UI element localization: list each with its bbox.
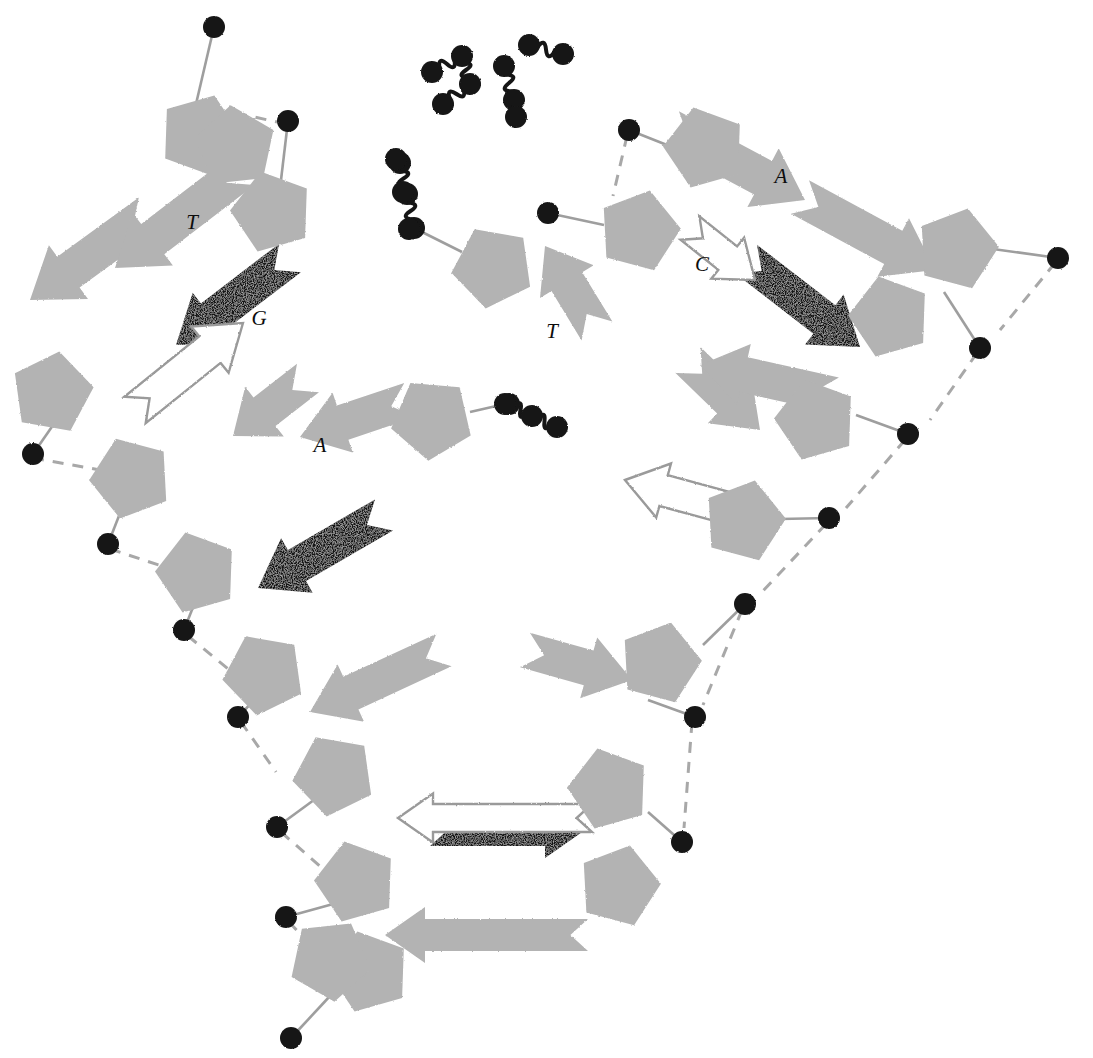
- diagram-canvas: TGATCA: [0, 0, 1093, 1058]
- label-T-center: T: [546, 319, 559, 343]
- phosphate-circle: [897, 423, 919, 445]
- squiggle-ball: [451, 45, 473, 67]
- phosphate-circle: [173, 619, 195, 641]
- phosphate-circle: [671, 831, 693, 853]
- phosphate-circle: [392, 181, 414, 203]
- phosphate-circle: [1047, 247, 1069, 269]
- squiggle-ball: [459, 73, 481, 95]
- label-A-upper-right: A: [773, 164, 788, 188]
- phosphate-circle: [537, 202, 559, 224]
- squiggle-ball: [493, 55, 515, 77]
- label-T-upper-left: T: [186, 210, 199, 234]
- phosphate-circle: [969, 337, 991, 359]
- phosphate-circle: [97, 533, 119, 555]
- phosphate-circle: [203, 16, 225, 38]
- phosphate-circle: [818, 507, 840, 529]
- phosphate-circle: [385, 148, 407, 170]
- squiggle-ball: [505, 106, 527, 128]
- label-C-right: C: [695, 252, 710, 276]
- phosphate-circle: [684, 706, 706, 728]
- phosphate-circle: [22, 443, 44, 465]
- phosphate-circle: [275, 906, 297, 928]
- label-G-upper-left: G: [251, 306, 266, 330]
- squiggle-ball: [521, 405, 543, 427]
- phosphate-circle: [227, 706, 249, 728]
- squiggle-ball: [552, 43, 574, 65]
- squiggle-ball: [421, 61, 443, 83]
- label-A-mid-left: A: [312, 433, 327, 457]
- squiggle-ball: [546, 416, 568, 438]
- phosphate-circle: [266, 816, 288, 838]
- phosphate-circle: [734, 593, 756, 615]
- background: [0, 0, 1093, 1058]
- phosphate-circle: [494, 393, 516, 415]
- squiggle-ball: [518, 34, 540, 56]
- phosphate-circle: [618, 119, 640, 141]
- phosphate-circle: [398, 218, 420, 240]
- nucleic-acid-schematic: TGATCA: [0, 0, 1093, 1058]
- phosphate-circle: [277, 110, 299, 132]
- squiggle-ball: [432, 93, 454, 115]
- phosphate-circle: [280, 1027, 302, 1049]
